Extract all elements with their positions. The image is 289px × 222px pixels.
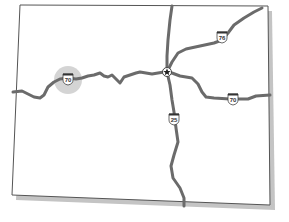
shield-i25[interactable]: 25	[169, 114, 179, 126]
shield-label: 76	[219, 35, 226, 41]
shield-i70-west[interactable]: 70	[63, 74, 73, 86]
shield-i70-east[interactable]: 70	[228, 94, 238, 106]
shield-label: 25	[171, 117, 178, 123]
capital-marker[interactable]	[163, 68, 172, 77]
shield-label: 70	[65, 77, 72, 83]
shield-label: 70	[230, 97, 237, 103]
state-outline	[12, 5, 270, 205]
state-map: 70 76 70 25	[0, 0, 289, 222]
shield-i76[interactable]: 76	[217, 32, 227, 44]
